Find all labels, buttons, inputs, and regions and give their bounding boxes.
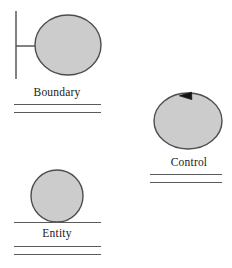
diagram-canvas: Boundary Control Entity (0, 0, 232, 268)
boundary-stereotype-icon (12, 8, 104, 82)
control-rule-line-2 (150, 182, 222, 183)
control-label: Control (150, 156, 228, 169)
entity-rule-line-1 (14, 246, 101, 247)
boundary-rule-line-2 (14, 112, 101, 113)
boundary-ellipse-shape (35, 15, 101, 75)
entity-circle-shape (31, 170, 83, 222)
control-circle-shape (154, 93, 222, 149)
entity-label: Entity (14, 227, 100, 240)
boundary-label: Boundary (14, 86, 100, 99)
boundary-rule-line-1 (14, 104, 101, 105)
entity-stereotype-icon (29, 169, 87, 225)
entity-rule-line-2 (14, 254, 101, 255)
boundary-element-group: Boundary (0, 0, 116, 125)
control-element-group: Control (145, 85, 232, 185)
control-rule-line-1 (150, 174, 222, 175)
control-stereotype-icon (152, 89, 226, 151)
entity-baseline-rule (14, 222, 101, 223)
entity-element-group: Entity (0, 165, 116, 268)
